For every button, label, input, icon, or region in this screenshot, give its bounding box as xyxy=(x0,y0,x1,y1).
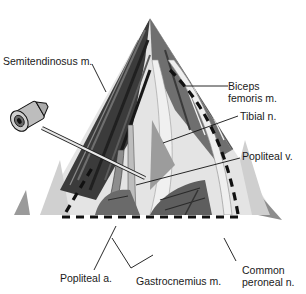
popliteal-fossa-diagram xyxy=(0,0,306,294)
semitendinosus-label: Semitendinosus m. xyxy=(3,55,92,67)
common-peroneal-label-line2: peroneal n. xyxy=(242,276,295,288)
biceps-femoris-label-line2: femoris m. xyxy=(228,92,277,104)
popliteal-vein-label: Popliteal v. xyxy=(242,150,293,162)
tibial-nerve-label: Tibial n. xyxy=(240,110,276,122)
popliteal-artery-label: Popliteal a. xyxy=(60,272,112,284)
biceps-femoris-label-line1: Biceps xyxy=(228,80,260,92)
gastrocnemius-label: Gastrocnemius m. xyxy=(136,275,221,287)
common-peroneal-label-line1: Common xyxy=(242,264,285,276)
